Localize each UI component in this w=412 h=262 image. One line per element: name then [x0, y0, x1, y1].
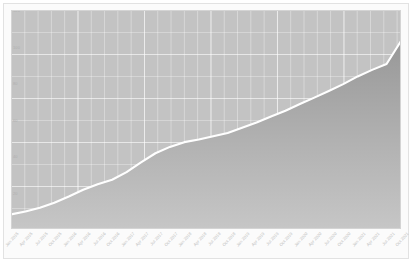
y-axis-tick-label: 60	[13, 117, 18, 122]
x-axis-tick-label: Jan 2018	[178, 231, 194, 247]
x-axis-tick-label: Jul 2015	[34, 231, 49, 246]
x-axis-tick-label: Jul 2019	[265, 231, 280, 246]
area-fill	[11, 41, 401, 229]
area-series-chart	[11, 10, 401, 229]
x-axis-tick-label: Oct 2019	[279, 231, 294, 247]
y-axis-tick-label: 40	[13, 154, 18, 159]
x-axis-tick-label: Jan 2016	[62, 231, 78, 247]
y-axis-tick-label: 120	[13, 10, 20, 13]
x-axis-tick-label: Apr 2020	[308, 231, 323, 247]
x-axis-tick-label: Jul 2016	[92, 231, 107, 246]
y-axis-tick-label: 100	[13, 44, 20, 49]
x-axis-tick-label: Jul 2018	[207, 231, 222, 246]
y-axis-tick-label: 80	[13, 81, 18, 86]
x-axis-tick-label: Apr 2017	[134, 231, 149, 247]
plot-area: 12010080604020	[11, 10, 401, 229]
x-axis-tick-label: Jan 2020	[293, 231, 309, 247]
x-axis-tick-label: Oct 2017	[163, 231, 178, 247]
x-axis-tick-label: Apr 2018	[192, 231, 207, 247]
x-axis-tick-label: Oct 2020	[337, 231, 352, 247]
x-axis-tick-label: Jan 2019	[235, 231, 251, 247]
x-axis-tick-label: Apr 2015	[19, 231, 34, 247]
x-axis-tick-label: Jan 2017	[120, 231, 136, 247]
x-axis-tick-label: Oct 2016	[105, 231, 120, 247]
x-axis-tick-label: Jul 2021	[381, 231, 396, 246]
x-axis-tick-label: Jul 2020	[323, 231, 338, 246]
x-axis-tick-label: Apr 2021	[365, 231, 380, 247]
x-axis-tick-label: Jul 2017	[150, 231, 165, 246]
x-axis-tick-label: Jan 2021	[351, 231, 367, 247]
x-axis-tick-label: Apr 2016	[77, 231, 92, 247]
x-axis-tick-labels: Jan 2015Apr 2015Jul 2015Oct 2015Jan 2016…	[11, 229, 401, 260]
y-axis-tick-label: 20	[13, 190, 18, 195]
x-axis-tick-label: Apr 2019	[250, 231, 265, 247]
chart-figure: 12010080604020 Jan 2015Apr 2015Jul 2015O…	[0, 0, 412, 262]
x-axis-tick-label: Oct 2015	[48, 231, 63, 247]
x-axis-tick-label: Oct 2018	[221, 231, 236, 247]
